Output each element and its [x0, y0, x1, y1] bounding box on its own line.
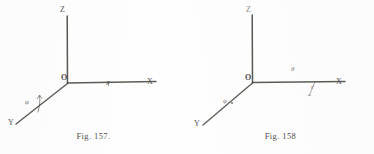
azimuth-angle-label: φ — [25, 99, 29, 106]
scanned-figure-page: Z X Y O φ P Fig. 157. Z X — [0, 0, 374, 154]
point-p-label: P — [106, 80, 110, 87]
axis-label-y: Y — [194, 120, 200, 128]
azimuth-angle-label: φ — [223, 98, 227, 105]
polar-angle-label: θ — [291, 66, 294, 73]
origin-label: O — [245, 74, 251, 82]
x-axis-line — [253, 82, 346, 83]
y-axis-line — [203, 83, 253, 125]
origin-label: O — [61, 74, 67, 82]
figure-157-caption: Fig. 157. — [0, 131, 187, 141]
axis-label-z: Z — [60, 6, 65, 14]
azimuth-angle-arc — [38, 96, 40, 112]
figure-158-caption: Fig. 158 — [187, 131, 374, 141]
radius-marker-label: r — [311, 84, 314, 91]
y-axis-line — [16, 84, 68, 125]
axis-label-y: Y — [8, 119, 14, 127]
figure-158: Z X Y O θ φ r Fig. 158 — [187, 0, 374, 154]
x-axis-line — [68, 82, 157, 84]
axis-label-x: X — [336, 78, 342, 86]
axis-label-x: X — [147, 78, 153, 86]
axis-label-z: Z — [246, 6, 251, 14]
projection-point-dot — [231, 102, 233, 104]
figure-157: Z X Y O φ P Fig. 157. — [0, 0, 187, 154]
